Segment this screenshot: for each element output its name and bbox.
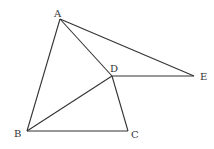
segment-ae (60, 19, 194, 76)
segment-ad (60, 19, 112, 76)
segments-group (27, 19, 194, 131)
segment-db (27, 76, 112, 131)
label-d: D (110, 63, 118, 74)
geometry-figure: A B C D E (0, 0, 214, 149)
figure-canvas: A B C D E (0, 0, 214, 149)
label-e: E (200, 71, 207, 82)
segment-ab (27, 19, 60, 131)
label-b: B (14, 128, 21, 139)
label-a: A (53, 8, 62, 19)
segment-dc (112, 76, 128, 131)
label-c: C (131, 129, 139, 140)
